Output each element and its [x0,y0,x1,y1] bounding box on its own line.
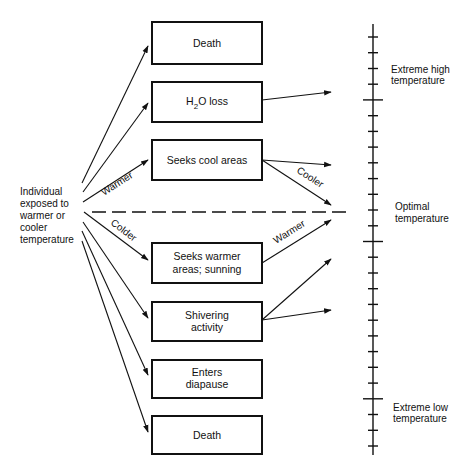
label-optimal-2: temperature [395,213,449,224]
label-extreme-low-1: Extreme low [393,402,449,413]
box-death-high-label: Death [193,37,221,49]
label-optimal-1: Optimal [395,201,429,212]
source-label-3: warmer or [19,210,66,221]
box-seeks-warmer-label-2: areas; sunning [173,263,242,275]
arrow-shivering-up [262,259,331,320]
source-label-4: cooler [20,222,48,233]
box-seeks-warmer-label: Seeks warmer [173,250,241,262]
response-arrows [262,92,331,320]
box-shivering-label-2: activity [191,321,224,333]
source-label-2: exposed to [20,198,69,209]
box-shivering-label: Shivering [185,309,229,321]
label-extreme-high-1: Extreme high [391,64,450,75]
source-label-5: temperature [20,234,74,245]
box-diapause-label-2: diapause [186,378,229,390]
temperature-response-diagram: Death H2O loss Seeks cool areas Seeks wa… [0,0,470,474]
arrow-h2o-to-scale [262,92,331,100]
label-extreme-high-2: temperature [391,75,445,86]
arrow-seekscool-to-scale [262,160,331,165]
response-label-cooler: Cooler [295,164,326,190]
temperature-scale [363,24,383,455]
branch-label-colder: Colder [109,217,140,244]
source-arrows [82,46,148,432]
arrow-to-death-high [82,46,148,183]
branch-label-warmer: Warmer [99,169,135,198]
response-label-warmer: Warmer [271,217,307,245]
label-extreme-low-2: temperature [393,413,447,424]
box-diapause-label: Enters [192,366,222,378]
box-death-low-label: Death [193,429,221,441]
source-label-1: Individual [20,186,62,197]
box-seeks-cool-label: Seeks cool areas [167,154,248,166]
